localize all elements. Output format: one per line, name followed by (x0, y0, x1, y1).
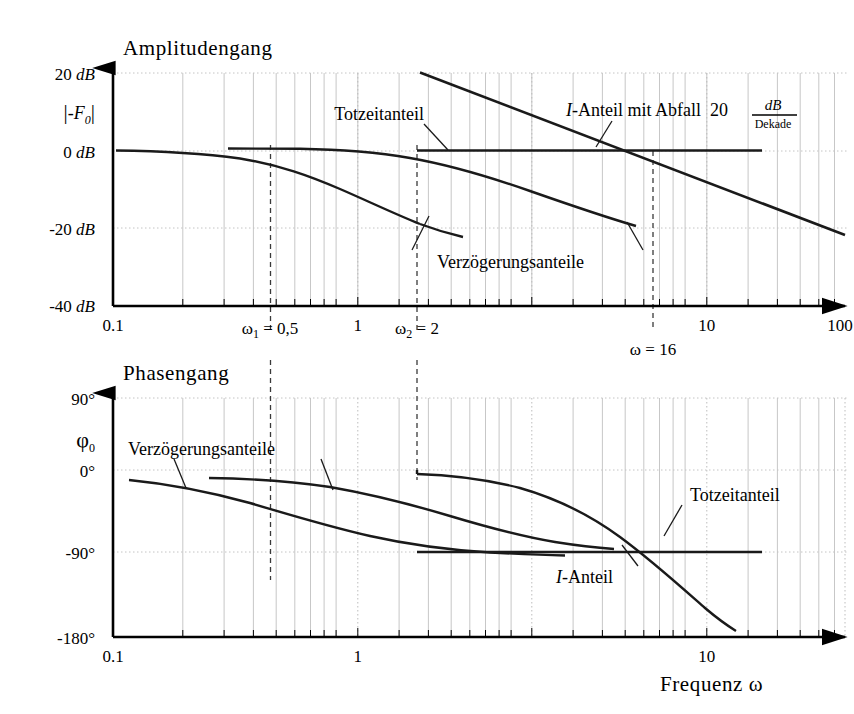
amplitude-annotation-i-anteil: I-Anteil mit Abfall 20 (565, 100, 728, 120)
amplitude-marker-label-omega1: ω1 = 0,5 (242, 319, 299, 341)
amplitude-marker-label-omega16: ω = 16 (630, 340, 676, 359)
phase-ytick-minus180: -180° (57, 629, 95, 648)
amplitude-annotation-i-anteil-fraction: dB Dekade (752, 97, 797, 131)
bode-svg-canvas: Amplitudengang 20 dB 0 dB -20 dB -40 dB … (0, 0, 854, 714)
amplitude-ytick-0: 0 dB (63, 143, 95, 162)
amplitude-annotation-verzoegerungsanteile: Verzögerungsanteile (437, 252, 584, 272)
phase-plot: Phasengang 90° 0° -90° -180° φ0 0.1 1 10… (57, 360, 848, 696)
phase-annotation-verzoegerungsanteile: Verzögerungsanteile (128, 439, 275, 459)
curve-verzoegerung-1-amplitude (116, 151, 420, 225)
phase-ytick-0: 0° (80, 462, 95, 481)
curve-verzoegerung-2-amplitude (228, 149, 636, 227)
amplitude-ytick-minus40: -40 dB (49, 297, 95, 316)
phase-xtick-10: 10 (698, 647, 715, 666)
fraction-numerator-db: dB (765, 97, 782, 113)
phase-minor-gridlines (183, 398, 835, 637)
phase-ytick-minus90: -90° (66, 544, 95, 563)
amplitude-marker-label-omega2: ω2 = 2 (395, 319, 439, 341)
phase-horizontal-gridlines (113, 398, 848, 552)
amplitude-xtick-1: 1 (354, 316, 363, 335)
amplitude-xtick-0-1: 0.1 (102, 316, 123, 335)
phase-xtick-1: 1 (354, 647, 363, 666)
phase-annotation-i-anteil: I-Anteil (555, 567, 613, 587)
amplitude-annotation-totzeitanteil: Totzeitanteil (334, 104, 424, 124)
phase-xtick-0-1: 0.1 (102, 647, 123, 666)
curve-verzoegerung-2-phase (209, 478, 614, 549)
phase-plot-title: Phasengang (123, 361, 229, 385)
fraction-denominator-dekade: Dekade (755, 117, 792, 131)
amplitude-plot: Amplitudengang 20 dB 0 dB -20 dB -40 dB … (49, 36, 853, 359)
phase-marker-lines (271, 360, 418, 580)
phase-x-axis-title: Frequenz ω (660, 672, 763, 696)
bode-diagram-figure: Amplitudengang 20 dB 0 dB -20 dB -40 dB … (0, 0, 854, 714)
phase-ytick-90: 90° (71, 390, 95, 409)
phase-y-axis-label: φ0 (76, 427, 95, 455)
curve-verzoegerung-1-amplitude-tail (420, 224, 463, 237)
amplitude-xtick-10: 10 (698, 316, 715, 335)
phase-annotation-totzeitanteil: Totzeitanteil (690, 485, 780, 505)
amplitude-leader-lines (412, 121, 643, 250)
phase-decade-gridlines (358, 398, 845, 637)
leader-totzeitanteil (424, 124, 448, 150)
amplitude-y-axis-label: |-F0| (64, 100, 95, 127)
amplitude-plot-title: Amplitudengang (123, 36, 273, 60)
amplitude-xtick-100: 100 (827, 316, 853, 335)
amplitude-ytick-20: 20 dB (55, 65, 96, 84)
leader-verz-1-phase (174, 459, 186, 488)
amplitude-x-ticks (183, 297, 835, 306)
phase-x-ticks (183, 628, 835, 637)
amplitude-ytick-minus20: -20 dB (49, 220, 95, 239)
